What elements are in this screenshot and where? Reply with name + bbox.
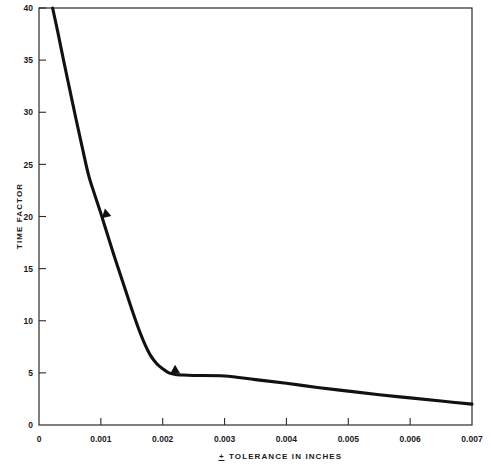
x-axis-title: TOLERANCE IN INCHES — [229, 452, 342, 461]
y-axis-tick-label: 0 — [28, 420, 33, 430]
y-axis-tick-label: 30 — [24, 107, 34, 117]
x-axis-tick-label: 0.001 — [90, 434, 112, 444]
y-axis-tick-label: 25 — [24, 160, 34, 170]
x-axis-tick-label: 0.004 — [276, 434, 298, 444]
x-axis-tick-label: 0.007 — [461, 434, 483, 444]
x-axis-title-group: + TOLERANCE IN INCHES — [219, 452, 343, 461]
y-axis-tick-label: 40 — [24, 3, 34, 13]
x-axis-tick-label: 0 — [37, 434, 42, 444]
y-axis-tick-label: 35 — [24, 55, 34, 65]
y-axis-tick-label: 5 — [28, 368, 33, 378]
y-axis-tick-label: 10 — [24, 316, 34, 326]
chart-background — [0, 0, 491, 467]
plus-minus-icon: + — [219, 452, 225, 461]
x-axis-tick-label: 0.002 — [152, 434, 174, 444]
y-axis-tick-label: 20 — [24, 212, 34, 222]
x-axis-tick-label: 0.003 — [214, 434, 236, 444]
x-axis-tick-label: 0.005 — [338, 434, 360, 444]
chart-figure: 0510152025303540 00.0010.0020.0030.0040.… — [0, 0, 491, 467]
chart-svg: 0510152025303540 00.0010.0020.0030.0040.… — [0, 0, 491, 467]
x-axis-tick-label: 0.006 — [400, 434, 422, 444]
y-axis-tick-label: 15 — [24, 264, 34, 274]
y-axis-title: TIME FACTOR — [15, 183, 24, 249]
